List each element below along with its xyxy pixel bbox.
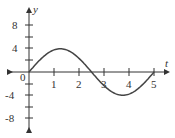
y-tick-label: -4 (5, 89, 15, 101)
y-tick-label: 8 (12, 19, 18, 31)
y-tick-label: -8 (5, 112, 15, 124)
x-tick-label: 2 (76, 78, 82, 90)
x-tick-label: 4 (126, 78, 132, 90)
y-tick-label: 4 (12, 42, 18, 54)
y-axis-label: y (32, 3, 38, 15)
origin-label: 0 (20, 71, 26, 83)
x-tick-label: 1 (51, 78, 57, 90)
x-axis-label: t (165, 57, 169, 69)
chart: 1 2 3 4 5 8 4 -4 -8 0 y t (0, 0, 175, 138)
x-tick-label: 5 (151, 78, 157, 90)
